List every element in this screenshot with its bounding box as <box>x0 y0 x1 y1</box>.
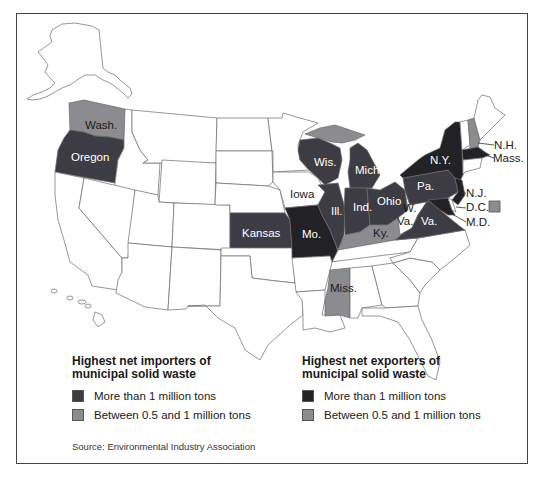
label-mo: Mo. <box>302 228 321 240</box>
swatch-importer-more <box>72 390 84 402</box>
state-new-mexico <box>168 247 221 310</box>
label-va: Va. <box>421 215 437 227</box>
state-colorado <box>172 203 230 250</box>
swatch-exporter-between <box>302 409 314 421</box>
label-ind: Ind. <box>353 201 372 213</box>
label-nj: N.J. <box>466 187 486 199</box>
state-wyoming <box>159 160 216 205</box>
label-miss: Miss. <box>330 282 357 294</box>
legend-importers: Highest net importers of municipal solid… <box>72 355 251 424</box>
state-north-dakota <box>216 118 272 151</box>
state-alaska <box>27 23 132 100</box>
state-massachusetts <box>462 147 490 160</box>
legend-importers-title: Highest net importers of municipal solid… <box>72 355 251 381</box>
dc-swatch <box>489 201 500 212</box>
label-wva-2: Va. <box>397 215 413 227</box>
label-ohio: Ohio <box>377 195 401 207</box>
state-south-dakota <box>216 151 273 186</box>
swatch-importer-between <box>72 409 84 421</box>
legend-exporters-row-more: More than 1 million tons <box>302 386 481 405</box>
state-maine <box>474 95 505 140</box>
label-ill: Ill. <box>331 205 343 217</box>
state-arkansas <box>292 256 332 292</box>
legend-importers-row-more: More than 1 million tons <box>72 386 251 405</box>
label-wva-1: W. <box>403 202 416 214</box>
legend-exporters-title: Highest net exporters of municipal solid… <box>302 355 481 381</box>
label-nh: N.H. <box>494 139 517 151</box>
state-connecticut-ri <box>463 158 482 175</box>
state-hawaii <box>51 289 105 327</box>
label-kansas: Kansas <box>242 227 281 239</box>
source-note: Source: Environmental Industry Associati… <box>72 441 255 452</box>
label-mass: Mass. <box>493 152 524 164</box>
legend-exporters-row-between: Between 0.5 and 1 million tons <box>302 405 481 424</box>
label-mich: Mich. <box>355 164 382 176</box>
swatch-exporter-more <box>302 390 314 402</box>
label-iowa: Iowa <box>290 188 315 200</box>
label-pa: Pa. <box>417 180 434 192</box>
label-dc: D.C. <box>466 201 489 213</box>
legend-exporters: Highest net exporters of municipal solid… <box>302 355 481 424</box>
label-wis: Wis. <box>314 156 336 168</box>
label-ky: Ky. <box>373 227 389 239</box>
legend-importers-row-between: Between 0.5 and 1 million tons <box>72 405 251 424</box>
state-montana <box>132 110 217 163</box>
label-ny: N.Y. <box>430 154 451 166</box>
label-wash: Wash. <box>85 119 117 131</box>
label-oregon: Oregon <box>71 151 109 163</box>
label-md: M.D. <box>466 216 490 228</box>
